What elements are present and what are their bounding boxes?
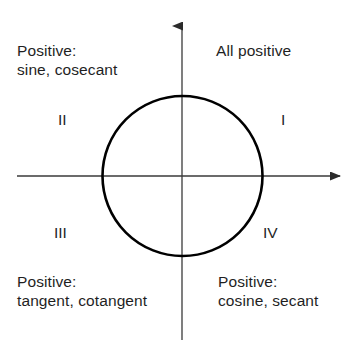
quadrant-label-iii: III [54,225,67,241]
quadrant-iv-note-line-1: Positive: [218,272,319,291]
quadrant-iv-note: Positive: cosine, secant [218,272,319,310]
quadrant-label-ii: II [58,112,67,128]
quadrant-label-i: I [281,112,285,128]
quadrant-i-note: All positive [216,41,291,60]
unit-circle-quadrant-diagram: Positive: sine, cosecant All positive Po… [0,0,364,349]
quadrant-label-iv: IV [263,225,278,241]
quadrant-iii-note: Positive: tangent, cotangent [17,272,147,310]
quadrant-ii-note: Positive: sine, cosecant [17,41,118,79]
quadrant-iv-note-line-2: cosine, secant [218,291,319,310]
quadrant-ii-note-line-1: Positive: [17,41,118,60]
quadrant-iii-note-line-1: Positive: [17,272,147,291]
quadrant-iii-note-line-2: tangent, cotangent [17,291,147,310]
quadrant-i-note-line-1: All positive [216,41,291,60]
quadrant-ii-note-line-2: sine, cosecant [17,60,118,79]
